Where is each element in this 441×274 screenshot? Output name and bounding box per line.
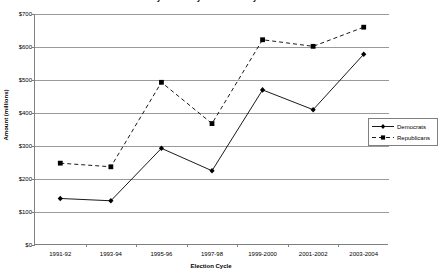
- y-axis-tick-label: $200: [19, 176, 32, 182]
- chart-legend: Democrats Republicans: [368, 118, 438, 146]
- data-point-marker: [58, 196, 63, 202]
- legend-label-republicans: Republicans: [397, 135, 430, 141]
- y-axis-tick-label: $0: [25, 242, 32, 248]
- chart-container: Money Raised by National Party Committee…: [0, 0, 441, 274]
- data-point-marker: [210, 121, 215, 126]
- data-point-marker: [260, 37, 265, 42]
- data-point-marker: [361, 25, 366, 30]
- data-point-marker: [209, 168, 214, 174]
- plot-area: $0$100$200$300$400$500$600$700 1991-9219…: [34, 14, 388, 245]
- y-axis-tick-label: $100: [19, 209, 32, 215]
- series-republicans: [58, 25, 366, 169]
- y-axis-tick-label: $400: [19, 110, 32, 116]
- y-axis-tick-mark: [32, 245, 35, 246]
- data-point-marker: [159, 80, 164, 85]
- x-axis-title: Election Cycle: [34, 263, 388, 269]
- data-point-marker: [108, 164, 113, 169]
- y-axis-tick-label: $500: [19, 77, 32, 83]
- legend-swatch-republicans: [372, 133, 394, 142]
- x-axis-tick-label: 2003-2004: [349, 251, 378, 257]
- y-axis-tick-label: $600: [19, 44, 32, 50]
- legend-item-democrats: Democrats: [372, 121, 434, 132]
- x-axis-tick-label: 1999-2000: [248, 251, 277, 257]
- data-point-marker: [58, 161, 63, 166]
- data-point-marker: [260, 87, 265, 93]
- y-axis-tick-label: $300: [19, 143, 32, 149]
- series-democrats: [58, 51, 367, 203]
- data-point-marker: [311, 44, 316, 49]
- legend-label-democrats: Democrats: [397, 124, 426, 130]
- x-axis-tick-label: 1997-98: [201, 251, 223, 257]
- x-axis-tick-label: 2001-2002: [299, 251, 328, 257]
- chart-title: Money Raised by National Party Committee…: [0, 0, 441, 2]
- series-line: [60, 54, 363, 201]
- x-axis-tick-label: 1995-96: [150, 251, 172, 257]
- legend-swatch-democrats: [372, 122, 394, 131]
- x-axis-tick-label: 1991-92: [49, 251, 71, 257]
- x-axis-tick-label: 1993-94: [100, 251, 122, 257]
- y-axis-tick-label: $700: [19, 11, 32, 17]
- series-line: [60, 27, 363, 167]
- series-lines: [35, 14, 389, 245]
- y-axis-title: Amount (millions): [3, 75, 9, 155]
- legend-item-republicans: Republicans: [372, 132, 434, 143]
